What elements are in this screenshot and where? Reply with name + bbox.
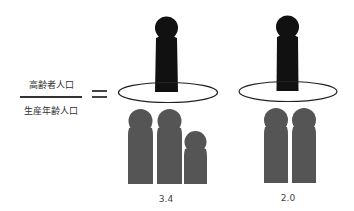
elderly-person-icon	[276, 16, 299, 92]
ratio-label-group-1: 3.4	[151, 194, 181, 204]
elderly-person-icon	[155, 17, 178, 93]
working-person-icon	[264, 108, 288, 183]
group-1	[119, 17, 218, 185]
ratio-label-group-2: 2.0	[273, 193, 303, 203]
working-person-icon	[292, 108, 316, 183]
working-person-icon	[157, 109, 182, 184]
illustration	[0, 0, 354, 211]
group-2	[239, 16, 337, 184]
working-person-icon	[128, 109, 153, 184]
partial-working-person-icon	[184, 131, 207, 184]
